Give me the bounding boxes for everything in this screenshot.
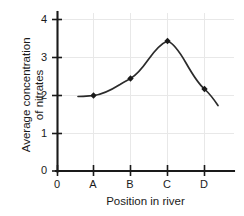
x-axis-title: Position in river <box>57 195 234 207</box>
x-tick-label-0: 0 <box>50 179 64 190</box>
data-point-C <box>164 38 170 44</box>
y-axis-title: Average concentration of nitrates <box>20 15 46 175</box>
x-tick-label-b: B <box>123 179 137 190</box>
y-axis-title-line-1: Average concentration <box>20 15 33 175</box>
x-tick-label-c: C <box>160 179 174 190</box>
y-axis-title-line-2: of nitrates <box>33 15 46 175</box>
data-point-A <box>90 92 96 98</box>
data-point-markers <box>90 38 207 99</box>
x-tick-label-d: D <box>197 179 211 190</box>
x-tick-label-a: A <box>86 179 100 190</box>
nitrates-line-chart: 4 3 2 1 0 0 A B C D Position in river Av… <box>0 0 244 216</box>
